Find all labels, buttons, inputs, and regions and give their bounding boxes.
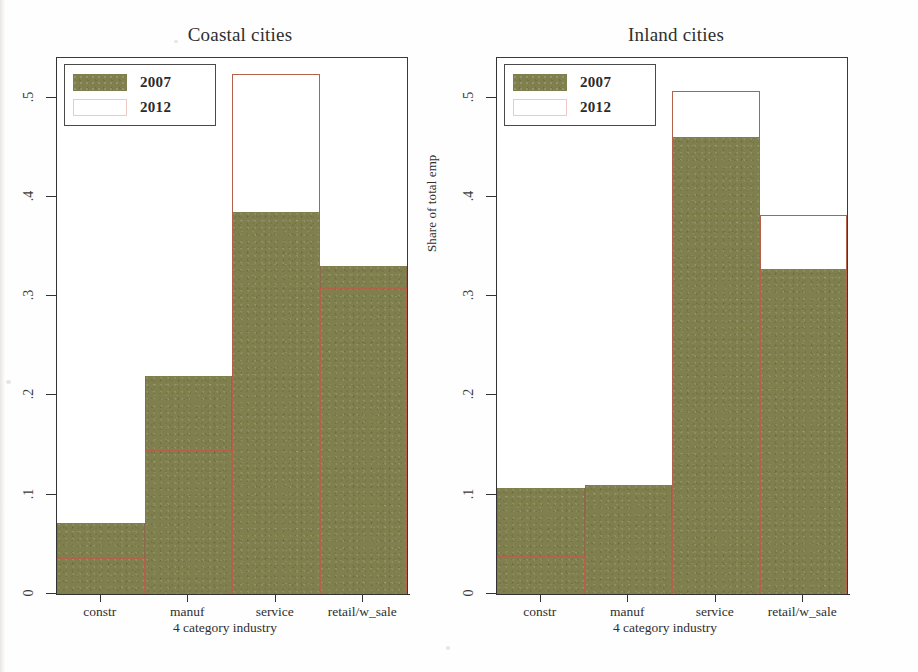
bar-2012 [760, 215, 848, 594]
panel-coastal-cities: Coastal cities .5.4.3.2.10 constrmanufse… [18, 24, 428, 624]
bar-group [672, 58, 760, 594]
x-tick [627, 594, 628, 602]
bar-2012 [145, 450, 233, 594]
legend-item-2012[interactable]: 2012 [71, 95, 209, 120]
y-tick-label: .4 [21, 181, 37, 211]
legend-item-2007[interactable]: 2007 [71, 70, 209, 95]
legend-swatch-outline-icon [73, 99, 127, 116]
scan-speck [446, 646, 450, 650]
legend-label: 2012 [140, 99, 171, 116]
y-tick-label: .4 [461, 181, 477, 211]
bar-2012 [232, 74, 320, 594]
bar-group [585, 58, 673, 594]
legend-item-2012[interactable]: 2012 [511, 95, 649, 120]
x-tick [362, 594, 363, 602]
y-tick [46, 494, 56, 495]
x-tick-label: retail/w_sale [768, 604, 837, 620]
y-tick-label: .2 [21, 379, 37, 409]
x-axis-title: 4 category industry [56, 620, 408, 636]
legend-label: 2012 [580, 99, 611, 116]
x-tick [715, 594, 716, 602]
y-tick-label: 0 [461, 578, 477, 608]
legend-item-2007[interactable]: 2007 [511, 70, 649, 95]
legend-swatch-filled-icon [73, 74, 127, 91]
y-tick-label: .5 [21, 82, 37, 112]
scan-edge-artifact [0, 0, 5, 672]
y-tick-label: .1 [461, 479, 477, 509]
y-tick [46, 295, 56, 296]
legend-label: 2007 [580, 74, 611, 91]
x-tick-label: constr [523, 604, 556, 620]
y-tick [486, 295, 496, 296]
y-tick [46, 593, 56, 594]
x-tick-label: service [696, 604, 734, 620]
figure-canvas: Coastal cities .5.4.3.2.10 constrmanufse… [0, 0, 918, 672]
x-axis-line [496, 594, 850, 595]
bars-group [497, 58, 847, 594]
bar-2012 [320, 288, 408, 594]
y-axis-title: Share of total emp [424, 230, 440, 252]
legend: 2007 2012 [64, 64, 216, 126]
panel-title: Inland cities [458, 24, 868, 46]
y-tick-label: .3 [21, 280, 37, 310]
x-tick-label: manuf [610, 604, 645, 620]
y-tick-label: .2 [461, 379, 477, 409]
bar-2012 [672, 91, 760, 594]
y-tick [486, 394, 496, 395]
panel-inland-cities: Inland cities .5.4.3.2.10 constrmanufser… [458, 24, 868, 624]
y-tick [486, 196, 496, 197]
y-tick [486, 97, 496, 98]
y-tick [46, 394, 56, 395]
x-axis-title: 4 category industry [496, 620, 848, 636]
x-tick [540, 594, 541, 602]
bars-group [57, 58, 407, 594]
x-tick-label: manuf [170, 604, 205, 620]
y-tick [46, 196, 56, 197]
x-tick-label: service [256, 604, 294, 620]
scan-speck [6, 380, 11, 384]
bar-2012 [57, 558, 145, 594]
y-tick [46, 97, 56, 98]
y-tick-label: .5 [461, 82, 477, 112]
panel-title: Coastal cities [18, 24, 428, 46]
x-tick [802, 594, 803, 602]
legend-swatch-outline-icon [513, 99, 567, 116]
bar-group [57, 58, 145, 594]
legend-label: 2007 [140, 74, 171, 91]
y-tick [486, 494, 496, 495]
legend: 2007 2012 [504, 64, 656, 126]
x-tick [100, 594, 101, 602]
x-tick-label: constr [83, 604, 116, 620]
bar-group [760, 58, 848, 594]
y-tick [486, 593, 496, 594]
bar-2012 [585, 517, 673, 594]
y-tick-label: .1 [21, 479, 37, 509]
bar-group [497, 58, 585, 594]
bar-2012 [497, 556, 585, 594]
x-tick-label: retail/w_sale [328, 604, 397, 620]
bar-group [145, 58, 233, 594]
x-tick [275, 594, 276, 602]
bar-group [320, 58, 408, 594]
legend-swatch-filled-icon [513, 74, 567, 91]
y-tick-label: 0 [21, 578, 37, 608]
x-axis-line [56, 594, 410, 595]
y-tick-label: .3 [461, 280, 477, 310]
bar-group [232, 58, 320, 594]
x-tick [187, 594, 188, 602]
